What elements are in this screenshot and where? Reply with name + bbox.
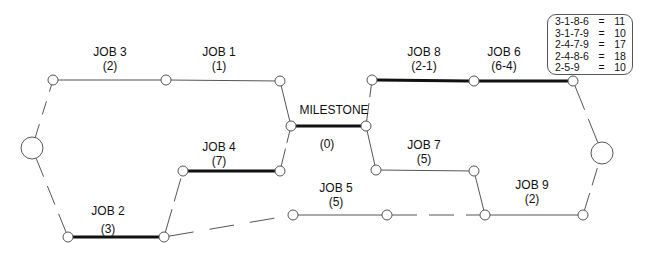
job1-label: JOB 1 (1) (202, 45, 235, 73)
job7-name: JOB 7 (407, 138, 440, 152)
job1-edge (171, 80, 275, 81)
connector-edge (367, 131, 375, 165)
event-node (48, 75, 58, 85)
milestone-duration: (0) (320, 137, 335, 151)
event-node (371, 165, 381, 175)
connector-edge (475, 176, 484, 210)
job4-name: JOB 4 (202, 140, 235, 154)
job6-name: JOB 6 (487, 45, 520, 59)
job4-duration: (7) (202, 154, 235, 168)
connector-edge (584, 164, 598, 211)
event-node (275, 76, 285, 86)
job2-name: JOB 2 (91, 204, 124, 218)
job3-label: JOB 3 (2) (93, 45, 126, 73)
event-node (568, 76, 578, 86)
job8-duration: (2-1) (407, 59, 440, 73)
milestone-label: MILESTONE (299, 103, 368, 117)
job3-name: JOB 3 (93, 45, 126, 59)
job8-edge (377, 80, 469, 81)
legend-value: 10 (614, 62, 632, 74)
connector-edge (575, 86, 598, 143)
connector-edge (281, 86, 290, 121)
event-node (578, 210, 588, 220)
event-node (480, 210, 490, 220)
event-node (288, 210, 298, 220)
job1-duration: (1) (202, 59, 235, 73)
start-node (21, 137, 43, 159)
milestone-duration-label: (0) (320, 137, 335, 151)
path-totals-legend: 3-1-8-6 = 11 3-1-7-9 = 10 2-4-7-9 = 17 2… (547, 14, 633, 75)
job7-label: JOB 7 (5) (407, 138, 440, 166)
end-node (591, 142, 613, 164)
event-node (161, 75, 171, 85)
legend-equals: = (598, 16, 614, 28)
job3-duration: (2) (93, 59, 126, 73)
dummy-edge (169, 216, 288, 236)
legend-row: 3-1-8-6 = 11 (555, 16, 632, 28)
milestone-name: MILESTONE (299, 103, 368, 117)
legend-value: 11 (614, 16, 632, 28)
job9-label: JOB 9 (2) (515, 178, 548, 206)
connector-edge (165, 176, 181, 232)
job2-duration: (3) (91, 222, 124, 236)
legend-path: 3-1-8-6 (555, 16, 598, 28)
event-node (178, 166, 188, 176)
legend-row: 2-5-9 = 10 (555, 62, 632, 74)
job9-duration: (2) (515, 192, 548, 206)
event-node (469, 166, 479, 176)
job7-edge (381, 170, 469, 171)
job5-duration: (5) (319, 195, 352, 209)
event-node (361, 121, 371, 131)
job4-label: JOB 4 (7) (202, 140, 235, 168)
connector-edge (281, 131, 290, 166)
job6-duration: (6-4) (487, 59, 520, 73)
legend-path: 2-5-9 (555, 62, 598, 74)
event-node (63, 232, 73, 242)
job6-label: JOB 6 (6-4) (487, 45, 520, 73)
connector-edge (36, 158, 66, 232)
job5-name: JOB 5 (319, 181, 352, 195)
job1-name: JOB 1 (202, 45, 235, 59)
event-node (275, 166, 285, 176)
job8-name: JOB 8 (407, 45, 440, 59)
connector-edge (35, 85, 51, 138)
job7-duration: (5) (407, 152, 440, 166)
event-node (159, 232, 169, 242)
event-node (382, 210, 392, 220)
job2-label: JOB 2 (3) (91, 204, 124, 236)
job8-label: JOB 8 (2-1) (407, 45, 440, 73)
legend-equals: = (598, 62, 614, 74)
job9-name: JOB 9 (515, 178, 548, 192)
event-node (286, 121, 296, 131)
event-node (469, 76, 479, 86)
job5-label: JOB 5 (5) (319, 181, 352, 209)
event-node (367, 75, 377, 85)
